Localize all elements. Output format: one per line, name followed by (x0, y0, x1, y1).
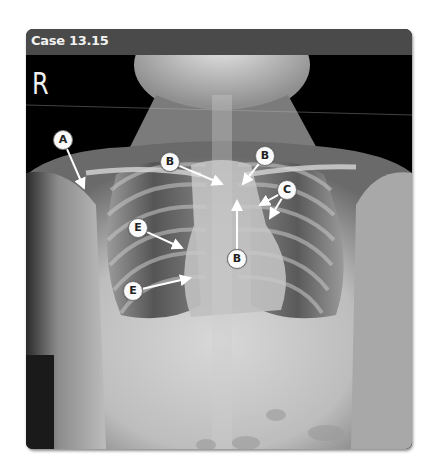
annotation-label-a: A (53, 130, 73, 150)
case-figure-panel: Case 13.15 (26, 29, 412, 449)
annotation-label-c: C (277, 180, 297, 200)
chest-xray-image: R (26, 55, 412, 449)
case-title: Case 13.15 (31, 33, 109, 48)
annotation-label-b: B (227, 249, 247, 269)
annotation-label-e: E (128, 218, 148, 238)
figure-header: Case 13.15 (26, 29, 412, 55)
annotation-label-b: B (255, 146, 275, 166)
annotation-label-b: B (160, 152, 180, 172)
annotation-label-e: E (123, 281, 143, 301)
side-marker-right: R (32, 69, 49, 99)
